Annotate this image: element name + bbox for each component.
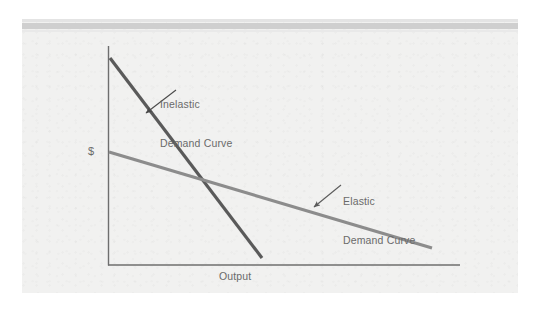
y-axis-label: $ — [88, 145, 94, 158]
elastic-leader-arrow-icon — [314, 185, 341, 207]
plot-area — [0, 0, 539, 310]
inelastic-curve-annotation: Inelastic Demand Curve — [160, 72, 232, 176]
inelastic-annotation-line-2: Demand Curve — [160, 137, 232, 150]
elastic-annotation-line-2: Demand Curve — [343, 234, 415, 247]
elastic-annotation-line-1: Elastic — [343, 195, 415, 208]
inelastic-annotation-line-1: Inelastic — [160, 98, 232, 111]
x-axis-label: Output — [219, 270, 251, 283]
demand-curve-figure: $ Output Inelastic Demand Curve Elastic … — [0, 0, 539, 310]
elastic-curve-annotation: Elastic Demand Curve — [343, 169, 415, 273]
